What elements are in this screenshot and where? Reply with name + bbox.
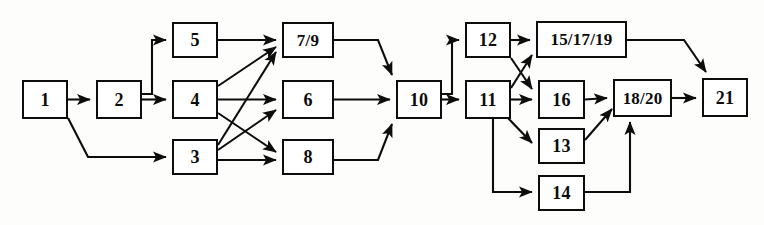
node-label: 3 — [190, 148, 199, 166]
node-label: 10 — [410, 91, 428, 109]
node-n1[interactable]: 1 — [22, 80, 68, 119]
edge-1-3 — [68, 118, 166, 157]
node-n14[interactable]: 14 — [538, 175, 585, 211]
edge-151719-21 — [627, 40, 706, 72]
node-label: 15/17/19 — [550, 31, 612, 48]
edge-16-1820 — [585, 98, 607, 100]
edge-79-10 — [334, 40, 392, 75]
edge-8-10 — [334, 124, 392, 160]
node-n12[interactable]: 12 — [465, 22, 511, 58]
node-label: 11 — [479, 91, 496, 109]
node-n151719[interactable]: 15/17/19 — [536, 21, 627, 58]
node-n21[interactable]: 21 — [702, 78, 748, 117]
node-n6[interactable]: 6 — [282, 80, 334, 119]
node-label: 13 — [552, 137, 570, 155]
node-label: 16 — [552, 91, 570, 109]
node-label: 18/20 — [623, 90, 663, 107]
node-label: 2 — [114, 91, 123, 109]
node-label: 8 — [303, 148, 312, 166]
node-label: 21 — [716, 89, 734, 107]
node-n8[interactable]: 8 — [282, 139, 334, 175]
edge-10-12 — [442, 40, 459, 94]
node-n1820[interactable]: 18/20 — [613, 79, 672, 117]
node-n4[interactable]: 4 — [172, 80, 218, 119]
node-n13[interactable]: 13 — [538, 128, 585, 164]
edge-13-1820 — [585, 109, 612, 140]
node-label: 12 — [479, 31, 497, 49]
node-n10[interactable]: 10 — [396, 80, 442, 119]
node-n79[interactable]: 7/9 — [282, 22, 334, 58]
node-label: 4 — [190, 91, 199, 109]
edge-11-13 — [507, 117, 532, 143]
node-n5[interactable]: 5 — [172, 22, 218, 58]
edge-11-14 — [493, 119, 532, 192]
node-label: 14 — [552, 184, 570, 202]
node-n11[interactable]: 11 — [465, 80, 511, 119]
node-n3[interactable]: 3 — [172, 139, 218, 175]
node-n16[interactable]: 16 — [538, 80, 585, 119]
edge-2-5 — [142, 40, 166, 94]
node-n2[interactable]: 2 — [96, 80, 142, 119]
node-label: 1 — [40, 91, 49, 109]
node-label: 7/9 — [297, 32, 319, 49]
node-label: 5 — [190, 31, 199, 49]
node-label: 6 — [303, 91, 312, 109]
precedence-network-diagram: 125437/96810121115/17/1916131418/2021 — [0, 0, 764, 225]
